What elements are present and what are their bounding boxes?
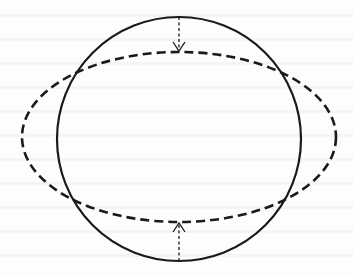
diagram-canvas <box>0 0 353 277</box>
original-circle <box>57 17 301 261</box>
deformation-diagram <box>0 0 353 277</box>
deformed-ellipse <box>22 52 336 222</box>
top-compression-arrow <box>173 17 185 51</box>
bottom-compression-arrow <box>173 223 185 261</box>
